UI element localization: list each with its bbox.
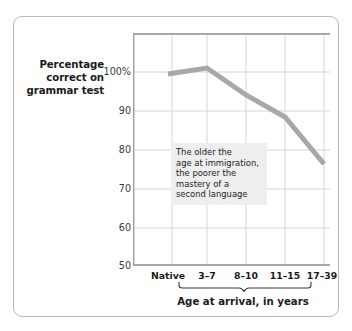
x-axis-title: Age at arrival, in years xyxy=(177,296,309,307)
chart-figure: Percentage correct on grammar test 100% … xyxy=(0,0,352,331)
y-axis-title: Percentage correct on grammar test xyxy=(20,58,104,98)
y-tick-label-80: 80 xyxy=(101,145,131,155)
x-tick-label-8-10: 8–10 xyxy=(234,270,258,281)
y-tick-label-50: 50 xyxy=(101,261,131,271)
x-tick-label-11-15: 11–15 xyxy=(270,270,301,281)
y-tick-label-90: 90 xyxy=(101,106,131,116)
group-brace-icon xyxy=(178,281,312,294)
y-axis-title-line-3: grammar test xyxy=(20,84,104,97)
annotation-line-3: the poorer the xyxy=(176,168,262,179)
y-axis-title-line-1: Percentage xyxy=(20,58,104,71)
y-tick-label-70: 70 xyxy=(101,184,131,194)
annotation-line-2: age at immigration, xyxy=(176,158,262,169)
y-tick-label-100: 100% xyxy=(101,67,131,77)
annotation-callout: The older the age at immigration, the po… xyxy=(171,143,267,205)
annotation-line-4: mastery of a xyxy=(176,179,262,190)
y-axis-title-line-2: correct on xyxy=(20,71,104,84)
annotation-line-5: second language xyxy=(176,189,262,200)
x-tick-label-3-7: 3–7 xyxy=(198,270,216,281)
x-tick-label-native: Native xyxy=(151,270,185,281)
x-tick-label-17-39: 17–39 xyxy=(307,270,338,281)
annotation-line-1: The older the xyxy=(176,147,262,158)
y-tick-label-60: 60 xyxy=(101,223,131,233)
